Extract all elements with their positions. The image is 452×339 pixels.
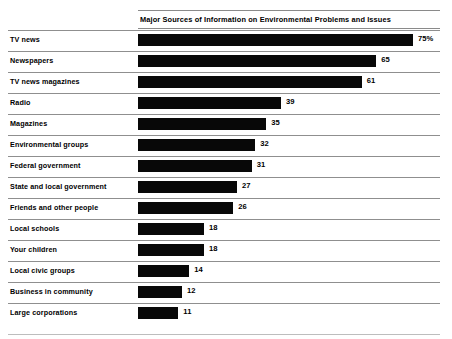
bar bbox=[138, 244, 204, 256]
bar bbox=[138, 34, 413, 46]
bar bbox=[138, 118, 266, 130]
category-label: Magazines bbox=[10, 119, 47, 128]
bar-track bbox=[138, 76, 362, 88]
bar-value-label: 31 bbox=[257, 160, 265, 169]
bar-track bbox=[138, 97, 281, 109]
bar-row: Large corporations11 bbox=[0, 303, 452, 324]
bar bbox=[138, 286, 182, 298]
bar-track bbox=[138, 139, 255, 151]
category-label: TV news magazines bbox=[10, 77, 80, 86]
bar-row: TV news magazines61 bbox=[0, 72, 452, 93]
row-divider bbox=[8, 93, 440, 94]
bar-value-label: 18 bbox=[209, 223, 217, 232]
category-label: Local civic groups bbox=[10, 266, 75, 275]
category-label: State and local government bbox=[10, 182, 106, 191]
bar-value-label: 12 bbox=[187, 286, 195, 295]
category-label: Environmental groups bbox=[10, 140, 88, 149]
category-label: Radio bbox=[10, 98, 30, 107]
bar-track bbox=[138, 286, 182, 298]
row-divider bbox=[8, 177, 440, 178]
bar-row: TV news75% bbox=[0, 30, 452, 51]
bar-row: Environmental groups32 bbox=[0, 135, 452, 156]
bar-value-label: 65 bbox=[381, 55, 389, 64]
bar-value-label: 14 bbox=[194, 265, 202, 274]
category-label: Large corporations bbox=[10, 308, 77, 317]
bar-row: Friends and other people26 bbox=[0, 198, 452, 219]
bar-track bbox=[138, 307, 178, 319]
bar-value-label: 39 bbox=[286, 97, 294, 106]
bar-row: Your children18 bbox=[0, 240, 452, 261]
bar-track bbox=[138, 118, 266, 130]
bar-value-label: 61 bbox=[367, 76, 375, 85]
bar-track bbox=[138, 244, 204, 256]
bar-value-label: 32 bbox=[260, 139, 268, 148]
bar-value-label: 26 bbox=[238, 202, 246, 211]
bar bbox=[138, 202, 233, 214]
row-divider bbox=[8, 51, 440, 52]
chart-title: Major Sources of Information on Environm… bbox=[140, 15, 391, 24]
row-divider bbox=[8, 156, 440, 157]
row-divider bbox=[8, 135, 440, 136]
bar-row: Federal government31 bbox=[0, 156, 452, 177]
bar bbox=[138, 97, 281, 109]
row-divider bbox=[8, 219, 440, 220]
bar-track bbox=[138, 265, 189, 277]
row-divider bbox=[8, 72, 440, 73]
bar bbox=[138, 223, 204, 235]
bar-track bbox=[138, 223, 204, 235]
row-divider bbox=[8, 282, 440, 283]
category-label: TV news bbox=[10, 35, 40, 44]
bar-row: State and local government27 bbox=[0, 177, 452, 198]
bar bbox=[138, 139, 255, 151]
chart-title-band: Major Sources of Information on Environm… bbox=[138, 10, 440, 29]
bar-track bbox=[138, 181, 237, 193]
bar-value-label: 35 bbox=[271, 118, 279, 127]
category-label: Newspapers bbox=[10, 56, 53, 65]
bar-row: Radio39 bbox=[0, 93, 452, 114]
chart-figure: Major Sources of Information on Environm… bbox=[0, 0, 452, 339]
bar bbox=[138, 181, 237, 193]
row-divider bbox=[8, 30, 440, 31]
bar bbox=[138, 76, 362, 88]
category-label: Business in community bbox=[10, 287, 93, 296]
bar-track bbox=[138, 34, 413, 46]
row-divider bbox=[8, 114, 440, 115]
bar-track bbox=[138, 202, 233, 214]
row-divider bbox=[8, 198, 440, 199]
bar-value-label: 18 bbox=[209, 244, 217, 253]
bar-value-label: 11 bbox=[183, 307, 191, 316]
category-label: Federal government bbox=[10, 161, 81, 170]
row-divider bbox=[8, 303, 440, 304]
bar-row: Local civic groups14 bbox=[0, 261, 452, 282]
bar-value-label: 27 bbox=[242, 181, 250, 190]
bottom-divider bbox=[8, 334, 440, 335]
bar-row: Newspapers65 bbox=[0, 51, 452, 72]
bar bbox=[138, 307, 178, 319]
bar-row: Local schools18 bbox=[0, 219, 452, 240]
bar-rows-container: TV news75%Newspapers65TV news magazines6… bbox=[0, 30, 452, 324]
bar-row: Magazines35 bbox=[0, 114, 452, 135]
bar-row: Business in community12 bbox=[0, 282, 452, 303]
bar bbox=[138, 55, 376, 67]
bar-track bbox=[138, 160, 252, 172]
bar bbox=[138, 160, 252, 172]
bar bbox=[138, 265, 189, 277]
category-label: Friends and other people bbox=[10, 203, 98, 212]
row-divider bbox=[8, 240, 440, 241]
category-label: Local schools bbox=[10, 224, 59, 233]
category-label: Your children bbox=[10, 245, 57, 254]
row-divider bbox=[8, 261, 440, 262]
bar-value-label: 75% bbox=[418, 34, 433, 43]
bar-track bbox=[138, 55, 376, 67]
